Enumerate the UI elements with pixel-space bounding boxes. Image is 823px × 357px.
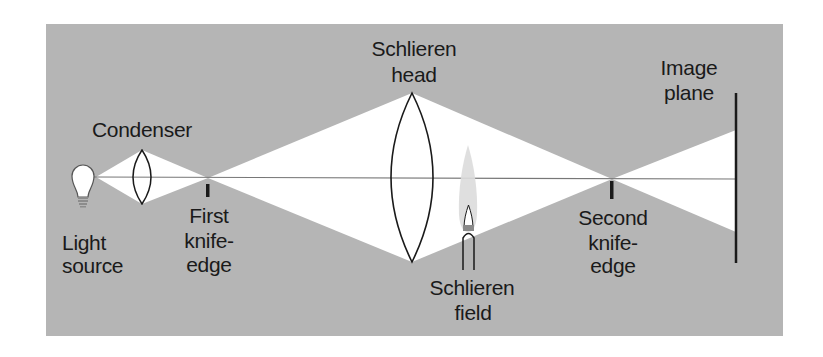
label-light-source-line2: source [62,254,123,277]
label-image-plane-line1: Image [661,56,718,79]
label-first-knife-line3: edge [186,253,232,276]
label-schlieren-head-line2: head [391,63,437,86]
label-schlieren-head-line1: Schlieren [372,37,457,60]
label-first-knife-line2: knife- [184,229,234,252]
label-schlieren-field-line1: Schlieren [430,276,515,299]
label-first-knife-line1: First [189,204,229,227]
label-second-knife-line2: knife- [588,231,638,254]
label-schlieren-field-line2: field [454,301,491,324]
label-second-knife-line1: Second [578,206,647,229]
first-knife-edge-icon [206,184,210,197]
label-image-plane-line2: plane [664,81,714,104]
schlieren-diagram: Condenser Light source First knife- edge… [0,0,823,357]
label-condenser: Condenser [92,118,192,141]
label-second-knife-line3: edge [590,254,636,277]
second-knife-edge-icon [610,181,614,199]
label-light-source-line1: Light [62,231,107,254]
